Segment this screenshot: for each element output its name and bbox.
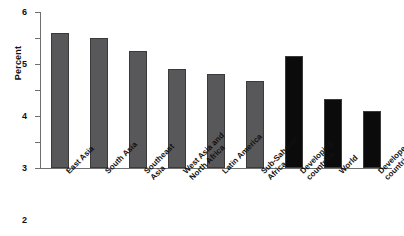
y-tick-mark: 4 — [35, 64, 40, 65]
x-axis-labels: East AsiaSouth AsiaSoutheast AsiaWest As… — [40, 170, 392, 236]
bar — [51, 33, 69, 168]
y-tick-mark: 3 — [35, 90, 40, 91]
y-tick-mark: 1 — [35, 142, 40, 143]
y-tick-mark: 2 — [35, 116, 40, 117]
y-tick-label: 5 — [22, 64, 27, 65]
y-tick-mark: 6 — [35, 12, 40, 13]
bar — [246, 81, 264, 168]
bar — [363, 111, 381, 168]
bar-chart: Percent 0123456 East AsiaSouth AsiaSouth… — [0, 0, 404, 236]
y-tick-label: 6 — [22, 12, 27, 13]
y-tick-mark: 5 — [35, 38, 40, 39]
y-tick-mark: 0 — [35, 168, 40, 169]
y-tick-label: 3 — [22, 168, 27, 169]
y-tick-label: 2 — [22, 220, 27, 221]
y-tick-label: 4 — [22, 116, 27, 117]
